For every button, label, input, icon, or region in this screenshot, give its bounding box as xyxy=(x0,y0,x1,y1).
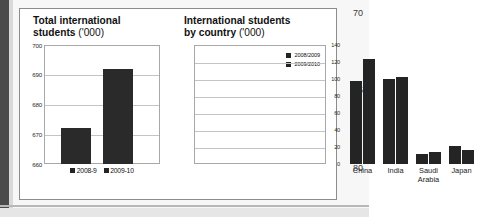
legend-item: 2008/2009 xyxy=(286,52,320,58)
bar-China-2008-2009 xyxy=(350,81,363,164)
bar-Saudi-Arabia-2009-2010 xyxy=(429,152,442,164)
bar-Japan-2008-2009 xyxy=(449,146,462,164)
left-chart-title-line1: Total international xyxy=(33,15,121,26)
gridline xyxy=(195,97,325,98)
chart-panel-total-students: Total international students ('000) 6606… xyxy=(20,9,172,201)
gridline xyxy=(195,114,325,115)
legend-label: 2008/2009 xyxy=(294,52,320,58)
right-chart-title-line1: International students xyxy=(184,15,290,26)
legend-swatch-icon xyxy=(104,168,109,173)
bar-China-2009-2010 xyxy=(363,59,376,164)
y-axis-tick-label: 60 xyxy=(324,110,340,116)
figure-frame: Total international students ('000) 6606… xyxy=(19,8,337,200)
gridline xyxy=(45,75,159,76)
y-axis-tick-label: 100 xyxy=(324,76,340,82)
y-axis-tick-label: 40 xyxy=(324,127,340,133)
left-chart-title: Total international students ('000) xyxy=(33,15,168,40)
y-axis-tick-label: 660 xyxy=(20,161,42,168)
bar-2008-9 xyxy=(61,128,91,164)
y-axis-tick-label: 20 xyxy=(324,144,340,150)
legend-swatch-icon xyxy=(70,168,75,173)
y-axis-tick-label: 120 xyxy=(324,59,340,65)
page-left-gutter xyxy=(0,0,9,208)
x-axis-label-India: India xyxy=(379,167,412,176)
bar-Saudi-Arabia-2008-2009 xyxy=(416,154,429,164)
page-bottom-strip xyxy=(0,208,369,217)
left-chart-legend: 2008-92009-10 xyxy=(44,167,160,174)
legend-swatch-icon xyxy=(286,53,291,58)
gridline xyxy=(195,63,325,64)
page-bottom-rule xyxy=(0,205,369,207)
y-axis-tick-label: 80 xyxy=(324,93,340,99)
legend-label: 2008-9 xyxy=(77,167,97,174)
bar-Japan-2009-2010 xyxy=(462,150,475,164)
right-chart-title-unit: ('000) xyxy=(239,27,265,38)
y-axis-tick-label: 140 xyxy=(324,42,340,48)
y-axis-tick-label: 670 xyxy=(20,131,42,138)
gridline xyxy=(195,80,325,81)
y-axis-tick-label: 0 xyxy=(324,161,340,167)
x-axis-label-Saudi-Arabia: Saudi Arabia xyxy=(412,167,445,184)
chart-panel-by-country: International students by country ('000)… xyxy=(172,9,338,201)
y-axis-tick-label: 680 xyxy=(20,101,42,108)
gridline xyxy=(195,131,325,132)
right-chart-title-line2: by country xyxy=(184,27,236,38)
bar-2009-10 xyxy=(103,69,133,164)
right-chart-title: International students by country ('000) xyxy=(184,15,334,40)
y-axis-tick-label: 700 xyxy=(20,42,42,49)
x-axis-label-China: China xyxy=(346,167,379,176)
gridline xyxy=(45,105,159,106)
bar-India-2008-2009 xyxy=(383,79,396,164)
gridline xyxy=(195,148,325,149)
x-axis-label-Japan: Japan xyxy=(445,167,478,176)
left-chart-title-unit: ('000) xyxy=(78,27,104,38)
right-chart-legend: 2008/20092009/2010 xyxy=(286,52,320,70)
legend-item: 2008-9 xyxy=(70,167,96,174)
right-chart-plot-area: 2008/20092009/2010 xyxy=(194,45,326,164)
legend-label: 2009-10 xyxy=(110,167,134,174)
page-left-gutter-shadow xyxy=(9,0,13,208)
legend-item: 2009-10 xyxy=(104,167,134,174)
line-number-70: 70 xyxy=(353,8,363,18)
left-chart-title-line2: students xyxy=(33,27,75,38)
y-axis-tick-label: 690 xyxy=(20,71,42,78)
bar-India-2009-2010 xyxy=(396,77,409,164)
